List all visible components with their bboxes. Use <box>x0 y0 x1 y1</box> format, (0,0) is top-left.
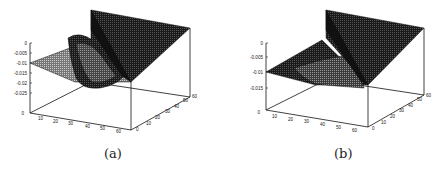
caption-a: (a) <box>104 146 122 161</box>
svg-text:-0.025: -0.025 <box>14 91 27 96</box>
svg-text:50: 50 <box>183 98 189 103</box>
svg-text:60: 60 <box>426 93 432 98</box>
svg-text:30: 30 <box>399 108 405 113</box>
svg-text:-0.01: -0.01 <box>253 70 264 75</box>
svg-text:20: 20 <box>390 114 396 119</box>
svg-text:40: 40 <box>408 103 414 108</box>
svg-text:-0.005: -0.005 <box>250 55 263 60</box>
svg-text:10: 10 <box>38 116 44 121</box>
svg-text:20: 20 <box>53 119 59 124</box>
svg-text:50: 50 <box>336 125 342 130</box>
svg-text:30: 30 <box>304 119 310 124</box>
svg-text:20: 20 <box>288 117 294 122</box>
svg-text:0: 0 <box>257 110 260 115</box>
svg-text:10: 10 <box>381 120 387 125</box>
svg-text:-0.015: -0.015 <box>250 86 263 91</box>
caption-b: (b) <box>334 146 352 161</box>
z-axis-labels-a: 0 -0.005 -0.01 -0.015 -0.02 -0.025 0 <box>14 41 27 116</box>
svg-text:-0.015: -0.015 <box>14 71 27 76</box>
surface-mesh-b <box>266 10 424 88</box>
svg-text:40: 40 <box>85 124 91 129</box>
svg-text:0: 0 <box>21 111 24 116</box>
surface-plot-a: 0 -0.005 -0.01 -0.015 -0.02 -0.025 0 10 … <box>0 0 224 150</box>
y-axis-labels-a: 0 10 20 30 40 50 60 <box>136 94 198 132</box>
svg-text:0: 0 <box>136 127 139 132</box>
svg-text:10: 10 <box>146 121 152 126</box>
panel-b: 0 -0.005 -0.01 -0.015 0 10 20 30 40 50 6… <box>224 0 448 179</box>
x-axis-labels-a: 10 20 30 40 50 60 <box>38 116 122 134</box>
svg-text:40: 40 <box>174 104 180 109</box>
svg-text:60: 60 <box>352 128 358 133</box>
svg-text:30: 30 <box>165 109 171 114</box>
svg-text:-0.005: -0.005 <box>14 51 27 56</box>
svg-text:60: 60 <box>192 94 198 99</box>
surface-mesh-a <box>30 10 190 88</box>
panel-a: 0 -0.005 -0.01 -0.015 -0.02 -0.025 0 10 … <box>0 0 224 179</box>
svg-text:0: 0 <box>260 41 263 46</box>
svg-text:50: 50 <box>417 97 423 102</box>
svg-text:0: 0 <box>372 126 375 131</box>
svg-text:10: 10 <box>272 114 278 119</box>
svg-text:30: 30 <box>68 121 74 126</box>
svg-text:20: 20 <box>155 115 161 120</box>
svg-text:-0.01: -0.01 <box>17 61 28 66</box>
y-axis-labels-b: 0 10 20 30 40 50 60 <box>372 93 432 131</box>
svg-text:60: 60 <box>116 129 122 134</box>
svg-text:0: 0 <box>24 41 27 46</box>
surface-plot-b: 0 -0.005 -0.01 -0.015 0 10 20 30 40 50 6… <box>224 0 448 150</box>
svg-text:50: 50 <box>100 126 106 131</box>
svg-text:-0.02: -0.02 <box>17 81 28 86</box>
svg-text:40: 40 <box>320 122 326 127</box>
z-axis-labels-b: 0 -0.005 -0.01 -0.015 0 <box>250 41 263 115</box>
